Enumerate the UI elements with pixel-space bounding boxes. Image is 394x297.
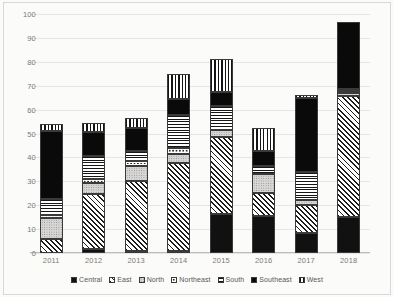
legend-item-southeast[interactable]: Southeast <box>251 276 291 283</box>
bar-segment-east-2011[interactable] <box>40 239 63 253</box>
legend-item-central[interactable]: Central <box>71 276 102 283</box>
bar-segment-east-2012[interactable] <box>82 194 105 249</box>
bar-segment-west-2015[interactable] <box>210 59 233 91</box>
legend-item-west[interactable]: West <box>299 276 323 283</box>
x-tick-label-2011: 2011 <box>30 256 73 265</box>
bar-segment-north-2014[interactable] <box>167 154 190 162</box>
bar-segment-south-2012[interactable] <box>82 156 105 179</box>
bar-slot-2014 <box>158 14 201 253</box>
bar-segment-west-2012[interactable] <box>82 123 105 133</box>
legend-swatch-central-icon <box>71 277 77 283</box>
bar-segment-west-2011[interactable] <box>40 124 63 131</box>
bar-segment-north-2016[interactable] <box>252 174 275 193</box>
legend-label: West <box>307 276 323 283</box>
bar-segment-southeast-2012[interactable] <box>82 132 105 156</box>
gridline-0 <box>30 253 370 254</box>
stacked-bar-2016[interactable] <box>252 14 275 253</box>
stacked-bar-chart: 1009080706050403020100 20112012201320142… <box>0 0 394 297</box>
x-tick-label-2014: 2014 <box>158 256 201 265</box>
x-tick-label-2012: 2012 <box>73 256 116 265</box>
x-tick-label-2018: 2018 <box>328 256 371 265</box>
chart-legend: CentralEastNorthNortheastSouthSoutheastW… <box>0 276 394 283</box>
bar-segment-central-2018[interactable] <box>337 217 360 253</box>
plot-area: 1009080706050403020100 <box>30 14 370 253</box>
bar-segment-south-2017[interactable] <box>295 172 318 201</box>
bar-segment-east-2018[interactable] <box>337 96 360 217</box>
legend-swatch-east-icon <box>109 277 115 283</box>
legend-label: East <box>117 276 131 283</box>
legend-item-northeast[interactable]: Northeast <box>171 276 210 283</box>
bar-segment-south-2016[interactable] <box>252 166 275 174</box>
bar-slot-2018 <box>328 14 371 253</box>
stacked-bar-2014[interactable] <box>167 14 190 253</box>
legend-swatch-west-icon <box>299 277 305 283</box>
legend-item-east[interactable]: East <box>109 276 131 283</box>
bar-segment-central-2016[interactable] <box>252 216 275 253</box>
bar-series-group <box>30 14 370 253</box>
legend-label: Central <box>79 276 102 283</box>
bar-segment-north-2011[interactable] <box>40 218 63 238</box>
stacked-bar-2011[interactable] <box>40 14 63 253</box>
legend-swatch-southeast-icon <box>251 277 257 283</box>
legend-label: South <box>226 276 245 283</box>
bar-segment-central-2013[interactable] <box>125 251 148 253</box>
legend-swatch-north-icon <box>139 277 145 283</box>
bar-segment-southeast-2018[interactable] <box>337 22 360 89</box>
x-tick-label-2013: 2013 <box>115 256 158 265</box>
bar-segment-east-2015[interactable] <box>210 137 233 213</box>
bar-segment-southeast-2011[interactable] <box>40 131 63 199</box>
stacked-bar-2015[interactable] <box>210 14 233 253</box>
bar-segment-southeast-2013[interactable] <box>125 128 148 152</box>
bar-segment-north-2012[interactable] <box>82 183 105 195</box>
bar-segment-central-2012[interactable] <box>82 249 105 253</box>
bar-segment-east-2014[interactable] <box>167 163 190 251</box>
bar-segment-west-2016[interactable] <box>252 128 275 152</box>
bar-segment-south-2015[interactable] <box>210 106 233 130</box>
legend-swatch-south-icon <box>218 277 224 283</box>
legend-label: North <box>147 276 165 283</box>
bar-segment-west-2013[interactable] <box>125 118 148 128</box>
bar-segment-east-2016[interactable] <box>252 193 275 216</box>
stacked-bar-2013[interactable] <box>125 14 148 253</box>
bar-slot-2016 <box>243 14 286 253</box>
bar-segment-southeast-2014[interactable] <box>167 99 190 115</box>
bar-segment-east-2013[interactable] <box>125 181 148 250</box>
legend-swatch-northeast-icon <box>171 277 177 283</box>
bar-slot-2015 <box>200 14 243 253</box>
x-tick-label-2015: 2015 <box>200 256 243 265</box>
bar-slot-2013 <box>115 14 158 253</box>
bar-slot-2012 <box>73 14 116 253</box>
bar-slot-2017 <box>285 14 328 253</box>
legend-item-north[interactable]: North <box>139 276 165 283</box>
bar-segment-central-2015[interactable] <box>210 214 233 253</box>
stacked-bar-2017[interactable] <box>295 14 318 253</box>
bar-segment-southeast-2015[interactable] <box>210 92 233 106</box>
bar-segment-east-2017[interactable] <box>295 205 318 232</box>
bar-segment-west-2014[interactable] <box>167 74 190 99</box>
legend-label: Northeast <box>179 276 210 283</box>
stacked-bar-2018[interactable] <box>337 14 360 253</box>
legend-item-south[interactable]: South <box>218 276 245 283</box>
stacked-bar-2012[interactable] <box>82 14 105 253</box>
x-tick-label-2017: 2017 <box>285 256 328 265</box>
bar-segment-north-2013[interactable] <box>125 166 148 182</box>
bar-segment-south-2013[interactable] <box>125 151 148 161</box>
bar-segment-southeast-2016[interactable] <box>252 151 275 165</box>
bar-segment-south-2011[interactable] <box>40 199 63 215</box>
x-tick-label-2016: 2016 <box>243 256 286 265</box>
bar-segment-southeast-2017[interactable] <box>295 98 318 172</box>
legend-label: Southeast <box>259 276 291 283</box>
bar-segment-south-2014[interactable] <box>167 115 190 148</box>
x-axis-labels: 20112012201320142015201620172018 <box>30 256 370 265</box>
bar-slot-2011 <box>30 14 73 253</box>
bar-segment-central-2014[interactable] <box>167 251 190 253</box>
bar-segment-north-2015[interactable] <box>210 130 233 137</box>
bar-segment-central-2017[interactable] <box>295 233 318 253</box>
